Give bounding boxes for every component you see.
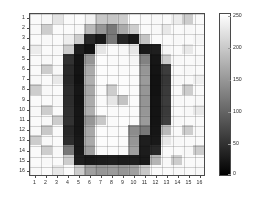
heatmap-cell: [161, 84, 172, 94]
y-tickmark: [27, 130, 29, 131]
heatmap-cell: [63, 44, 74, 54]
heatmap-cell: [182, 145, 193, 155]
colorbar-tick-label: 0: [233, 171, 236, 176]
heatmap-cell: [63, 54, 74, 64]
heatmap-cell: [41, 34, 52, 44]
heatmap-cell: [161, 145, 172, 155]
colorbar-tick-label: 100: [233, 109, 242, 114]
x-tickmark: [156, 176, 157, 178]
x-tickmark: [57, 176, 58, 178]
heatmap-cell: [95, 105, 106, 115]
heatmap-cell: [128, 105, 139, 115]
heatmap-cell: [41, 105, 52, 115]
heatmap-cell: [117, 54, 128, 64]
heatmap-cell: [95, 95, 106, 105]
heatmap-cell: [52, 44, 63, 54]
heatmap-cell: [106, 165, 117, 175]
heatmap-cell: [193, 125, 204, 135]
heatmap-cell: [74, 74, 85, 84]
heatmap-cell: [84, 44, 95, 54]
heatmap-cell: [139, 155, 150, 165]
heatmap-cell: [95, 145, 106, 155]
x-tickmark: [189, 176, 190, 178]
heatmap-cell: [84, 14, 95, 24]
heatmap-cell: [52, 155, 63, 165]
x-tick-label: 5: [77, 180, 80, 185]
heatmap-cell: [193, 115, 204, 125]
y-tickmark: [27, 161, 29, 162]
heatmap-cell: [74, 34, 85, 44]
heatmap-cell: [117, 135, 128, 145]
heatmap-cell: [128, 74, 139, 84]
colorbar-tick-label: 250: [233, 14, 242, 19]
x-tickmark: [35, 176, 36, 178]
x-tickmark: [167, 176, 168, 178]
heatmap-cell: [128, 24, 139, 34]
heatmap-cell: [106, 34, 117, 44]
heatmap-cell: [128, 95, 139, 105]
heatmap-cell: [63, 115, 74, 125]
heatmap-cell: [161, 115, 172, 125]
heatmap-cell: [52, 145, 63, 155]
y-tickmark: [27, 18, 29, 19]
heatmap-cell: [171, 165, 182, 175]
y-tickmark: [27, 38, 29, 39]
heatmap-cell: [41, 74, 52, 84]
heatmap-cell: [128, 115, 139, 125]
heatmap-cell: [161, 95, 172, 105]
heatmap-cell: [117, 165, 128, 175]
heatmap-cell: [171, 105, 182, 115]
heatmap-cell: [52, 95, 63, 105]
heatmap-cell: [139, 14, 150, 24]
heatmap-cell: [128, 125, 139, 135]
heatmap-cell: [117, 64, 128, 74]
heatmap-cell: [41, 165, 52, 175]
heatmap-cell: [117, 125, 128, 135]
heatmap-cell: [63, 14, 74, 24]
heatmap-cell: [106, 84, 117, 94]
colorbar-tick-label: 200: [233, 46, 242, 51]
heatmap-cell: [84, 165, 95, 175]
x-tick-label: 13: [164, 180, 170, 185]
x-tick-label: 14: [175, 180, 181, 185]
heatmap-cell: [74, 84, 85, 94]
heatmap-cell: [128, 44, 139, 54]
heatmap-cell: [52, 34, 63, 44]
heatmap-cell: [30, 95, 41, 105]
x-tick-label: 11: [142, 180, 147, 185]
heatmap-cell: [95, 165, 106, 175]
heatmap-cell: [139, 145, 150, 155]
x-tickmark: [178, 176, 179, 178]
heatmap-cell: [182, 34, 193, 44]
colorbar[interactable]: [219, 13, 231, 176]
heatmap-axes[interactable]: [29, 13, 205, 176]
heatmap-cell: [30, 105, 41, 115]
x-tickmark: [90, 176, 91, 178]
heatmap-cell: [193, 95, 204, 105]
heatmap-cell: [117, 44, 128, 54]
heatmap-cell: [74, 115, 85, 125]
heatmap-cell: [150, 64, 161, 74]
heatmap-cell: [161, 135, 172, 145]
heatmap-cell: [182, 64, 193, 74]
x-tick-label: 2: [44, 180, 47, 185]
colorbar-tick-label: 50: [233, 141, 239, 146]
heatmap-cell: [84, 155, 95, 165]
heatmap-cell: [95, 64, 106, 74]
heatmap-cell: [128, 54, 139, 64]
y-tick-label: 3: [0, 36, 25, 41]
heatmap-cell: [182, 95, 193, 105]
heatmap-cell: [139, 24, 150, 34]
heatmap-cell: [95, 125, 106, 135]
heatmap-cell: [117, 145, 128, 155]
heatmap-cell: [139, 125, 150, 135]
heatmap-cell: [139, 135, 150, 145]
heatmap-cell: [150, 155, 161, 165]
heatmap-cell: [161, 54, 172, 64]
heatmap-cell: [74, 14, 85, 24]
heatmap-cell: [74, 155, 85, 165]
heatmap-cell: [84, 54, 95, 64]
heatmap-cell: [63, 165, 74, 175]
heatmap-cell: [193, 64, 204, 74]
heatmap-cell: [139, 74, 150, 84]
